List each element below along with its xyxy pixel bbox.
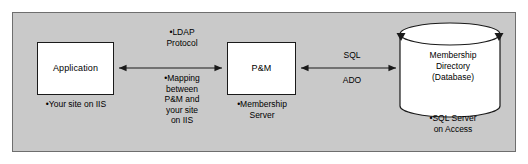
- node-application[interactable]: Application: [37, 42, 114, 95]
- node-database-caption: •SQL Server on Access: [398, 113, 508, 134]
- connection-app-pm-annotation-top: •LDAP Protocol: [140, 27, 224, 48]
- node-pm-label: P&M: [252, 63, 272, 74]
- connection-app-pm-annotation-bottom: •Mapping between P&M and your site on II…: [140, 73, 224, 126]
- connection-pm-db-label-sql: SQL: [329, 50, 375, 61]
- node-pm-caption: •Membership Server: [218, 99, 306, 120]
- node-database-label: Membership Directory (Database): [398, 50, 508, 83]
- node-application-label: Application: [53, 63, 98, 74]
- node-application-caption: •Your site on IIS: [20, 99, 132, 110]
- connection-pm-db-label-ado: ADO: [329, 75, 375, 86]
- diagram-canvas: Application •Your site on IIS P&M •Membe…: [0, 0, 528, 164]
- node-pm[interactable]: P&M: [227, 42, 296, 95]
